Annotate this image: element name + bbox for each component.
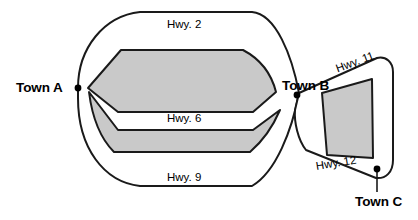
- highway-2-label: Hwy. 2: [167, 18, 201, 30]
- town-a-dot: [75, 85, 82, 92]
- upper-shaded-region: [88, 50, 276, 112]
- town-c-dot: [374, 166, 381, 173]
- highway-6-label: Hwy. 6: [167, 112, 201, 124]
- right-shaded-region: [322, 79, 373, 158]
- town-c-label: Town C: [355, 194, 402, 209]
- town-a-label: Town A: [16, 80, 63, 95]
- highway-9-label: Hwy. 9: [167, 171, 201, 183]
- road-network-map: Town A Town B Town C Hwy. 2 Hwy. 6 Hwy. …: [0, 0, 418, 220]
- town-b-label: Town B: [282, 78, 329, 93]
- map-graphic: [0, 0, 418, 220]
